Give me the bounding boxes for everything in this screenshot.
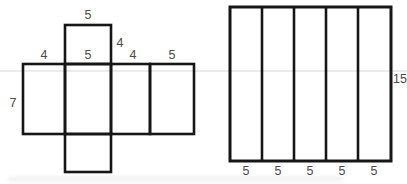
- net-bottom-flap: [65, 134, 111, 172]
- net-label-face3-top: 4: [130, 48, 137, 62]
- diagram-page: 5 4 4 5 4 5 7 5 5 5 5 5 15: [0, 0, 407, 184]
- strip-outer-rect: [230, 7, 391, 161]
- bottom-scan-smudge: [8, 177, 343, 182]
- net-face-4: [150, 64, 194, 134]
- net-face-2: [65, 64, 111, 134]
- strip-label-right-side: 15: [393, 72, 407, 86]
- diagram-canvas: 5 4 4 5 4 5 7 5 5 5 5 5 15: [0, 0, 407, 184]
- strip-figure: [230, 7, 391, 161]
- strip-label-3: 5: [307, 164, 314, 178]
- net-label-flap-right: 4: [117, 36, 124, 50]
- net-label-face4-top: 5: [169, 48, 176, 62]
- strip-label-4: 5: [339, 164, 346, 178]
- strip-label-2: 5: [275, 164, 282, 178]
- net-label-flap-top: 5: [85, 8, 92, 22]
- net-face-3: [111, 64, 150, 134]
- net-label-left-side: 7: [10, 96, 17, 110]
- strip-label-5: 5: [371, 164, 378, 178]
- net-label-face1-top: 4: [41, 48, 48, 62]
- net-face-1: [23, 64, 65, 134]
- net-label-face2-top: 5: [85, 48, 92, 62]
- strip-label-1: 5: [243, 164, 250, 178]
